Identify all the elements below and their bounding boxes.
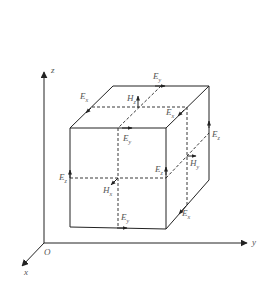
origin-label: O <box>44 248 51 257</box>
label-hx-front: Hx <box>103 186 112 197</box>
x-axis <box>22 243 44 266</box>
label-hy-right: Hy <box>190 159 199 170</box>
label-ey-top-front: Ey <box>123 134 131 145</box>
ex-top-right-arrow <box>178 110 184 116</box>
hx-front-arrow <box>111 178 118 185</box>
label-ex-bottom-right: Ex <box>182 209 190 220</box>
label-ey-bottom: Ey <box>121 213 129 224</box>
x-axis-label: x <box>24 268 28 277</box>
label-ex-top-left: Ex <box>80 92 88 103</box>
label-hz-top: Hz <box>127 94 136 105</box>
label-ez-mid-right: Ez <box>155 165 163 176</box>
label-ez-left: Ez <box>59 173 67 184</box>
yee-cell-diagram <box>0 0 275 290</box>
ex-top-left-arrow <box>86 108 91 113</box>
label-ex-top-right: Ex <box>166 108 174 119</box>
label-ey-top-back: Ey <box>153 72 161 83</box>
label-ez-back-right: Ez <box>212 130 220 141</box>
z-axis-label: z <box>51 66 55 75</box>
y-axis-label: y <box>252 238 256 247</box>
